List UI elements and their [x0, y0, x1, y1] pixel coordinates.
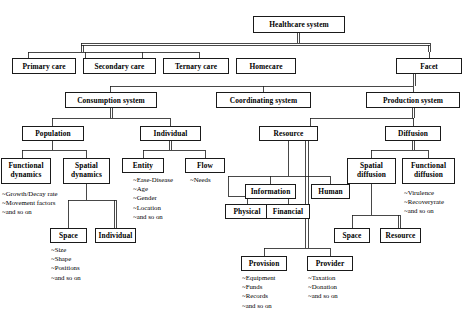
attr-item: ~and so on — [308, 291, 338, 300]
attrs-functional-diffusion: ~Virulence ~Recoveryrate ~and so on — [404, 188, 444, 216]
node-label: Resource — [274, 129, 304, 138]
node-label: Primary care — [22, 62, 65, 71]
attr-item: ~Ease-Disease — [133, 175, 173, 184]
node-label-line2: diffusion — [357, 171, 386, 180]
attrs-functional-dynamics: ~Growth/Decay rate ~Movement factors ~an… — [2, 189, 58, 217]
attr-item: ~Location — [133, 203, 173, 212]
node-consumption-system[interactable]: Consumption system — [65, 92, 157, 108]
node-flow[interactable]: Flow — [185, 158, 225, 173]
node-label: Flow — [197, 161, 213, 170]
node-label: Entity — [133, 161, 153, 170]
node-label: Space — [343, 231, 362, 240]
attr-item: ~Donation — [308, 282, 338, 291]
attr-item: ~and so on — [242, 301, 276, 310]
attr-item: ~and so on — [2, 207, 58, 216]
node-resource[interactable]: Resource — [259, 126, 318, 141]
node-label: Human — [318, 187, 342, 196]
node-label: Individual — [154, 129, 188, 138]
attr-item: ~Shape — [51, 254, 81, 263]
node-healthcare-system[interactable]: Healthcare system — [253, 16, 345, 33]
attrs-provider: ~Taxation ~Donation ~and so on — [308, 273, 338, 301]
node-production-system[interactable]: Production system — [366, 92, 460, 108]
node-label: Individual — [99, 231, 133, 240]
node-label: Coordinating system — [230, 96, 297, 105]
node-label: Homecare — [249, 62, 282, 71]
node-label-line2: diffusion — [414, 171, 443, 180]
attr-item: ~Recoveryrate — [404, 197, 444, 206]
node-resource-leaf[interactable]: Resource — [380, 228, 421, 243]
diagram-canvas: Healthcare system Primary care Secondary… — [0, 0, 470, 316]
node-label-line2: dynamics — [71, 171, 102, 180]
node-financial[interactable]: Financial — [266, 204, 310, 219]
node-population[interactable]: Population — [22, 126, 84, 141]
node-label: Population — [35, 129, 71, 138]
node-facet[interactable]: Facet — [396, 58, 462, 74]
attr-item: ~Equipment — [242, 273, 276, 282]
node-diffusion[interactable]: Diffusion — [385, 126, 441, 141]
attr-item: ~Growth/Decay rate — [2, 189, 58, 198]
node-secondary-care[interactable]: Secondary care — [83, 58, 156, 74]
node-individual-leaf[interactable]: Individual — [95, 228, 136, 243]
node-label: Physical — [233, 207, 260, 216]
node-information[interactable]: Information — [245, 184, 296, 199]
attr-item: ~Funds — [242, 282, 276, 291]
node-label: Provision — [249, 259, 280, 268]
node-entity[interactable]: Entity — [122, 158, 164, 173]
node-coordinating-system[interactable]: Coordinating system — [216, 92, 311, 108]
node-label: Secondary care — [95, 62, 145, 71]
node-label: Facet — [420, 62, 438, 71]
node-homecare[interactable]: Homecare — [236, 58, 296, 74]
node-label: Resource — [386, 231, 416, 240]
node-functional-dynamics[interactable]: Functional dynamics — [1, 158, 51, 184]
node-physical[interactable]: Physical — [225, 204, 269, 219]
node-label: Ternary care — [175, 62, 217, 71]
attr-item: ~and so on — [404, 206, 444, 215]
node-space-right[interactable]: Space — [334, 228, 370, 243]
node-human[interactable]: Human — [311, 184, 350, 199]
node-label-line2: dynamics — [11, 171, 42, 180]
node-provider[interactable]: Provider — [307, 256, 353, 271]
attr-item: ~Needs — [190, 175, 211, 184]
attr-item: ~and so on — [133, 212, 173, 221]
node-label: Information — [251, 187, 291, 196]
node-label: Diffusion — [398, 129, 428, 138]
node-ternary-care[interactable]: Ternary care — [163, 58, 229, 74]
attrs-flow: ~Needs — [190, 175, 211, 184]
attr-item: ~Virulence — [404, 188, 444, 197]
node-primary-care[interactable]: Primary care — [12, 58, 76, 74]
node-functional-diffusion[interactable]: Functional diffusion — [402, 158, 455, 184]
node-individual[interactable]: Individual — [140, 126, 201, 141]
node-label: Consumption system — [77, 96, 145, 105]
attr-item: ~Gender — [133, 193, 173, 202]
node-provision[interactable]: Provision — [241, 256, 287, 271]
attrs-entity: ~Ease-Disease ~Age ~Gender ~Location ~an… — [133, 175, 173, 221]
attr-item: ~and so on — [51, 273, 81, 282]
node-label: Production system — [383, 96, 443, 105]
attrs-provision: ~Equipment ~Funds ~Records ~and so on — [242, 273, 276, 310]
attrs-space-left: ~Size ~Shape ~Positions ~and so on — [51, 245, 81, 282]
attr-item: ~Movement factors — [2, 198, 58, 207]
node-label: Provider — [316, 259, 345, 268]
attr-item: ~Positions — [51, 263, 81, 272]
node-spatial-dynamics[interactable]: Spatial dynamics — [63, 158, 110, 184]
attr-item: ~Size — [51, 245, 81, 254]
attr-item: ~Records — [242, 291, 276, 300]
attr-item: ~Taxation — [308, 273, 338, 282]
node-label: Space — [59, 231, 78, 240]
attr-item: ~Age — [133, 184, 173, 193]
node-label: Healthcare system — [269, 20, 329, 29]
node-spatial-diffusion[interactable]: Spatial diffusion — [347, 158, 396, 184]
node-label: Financial — [273, 207, 303, 216]
node-space-left[interactable]: Space — [50, 228, 87, 243]
